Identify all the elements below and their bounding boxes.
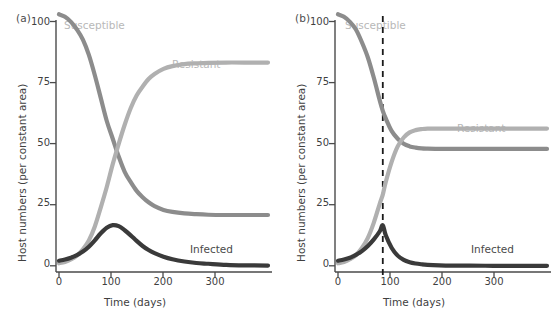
panel-a: (a) Host numbers (per constant area) 0 2…: [0, 0, 279, 326]
panel-a-x-ticks: [59, 272, 215, 278]
panel-b-y-ticks: [329, 22, 335, 266]
panel-b-plot: [279, 0, 558, 326]
panel-a-curve-susceptible: [59, 14, 268, 215]
panel-b: (b) Host numbers (per constant area) 0 2…: [279, 0, 558, 326]
panel-a-curve-resistant: [59, 63, 268, 264]
panel-b-x-ticks: [338, 272, 494, 278]
panel-a-y-ticks: [50, 22, 56, 266]
panel-a-curve-infected: [59, 225, 268, 265]
panel-b-curves: [338, 14, 547, 266]
panel-a-plot: [0, 0, 279, 326]
figure-container: (a) Host numbers (per constant area) 0 2…: [0, 0, 558, 326]
panel-a-curves: [59, 14, 268, 265]
